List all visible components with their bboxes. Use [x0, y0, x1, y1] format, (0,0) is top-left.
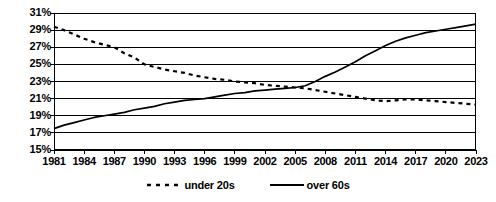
x-axis-ticks: [54, 150, 476, 154]
legend-item[interactable]: over 60s: [269, 180, 350, 191]
y-tick-label: 27%: [1, 41, 51, 52]
dashed-line-icon: [146, 180, 182, 190]
legend-label: under 20s: [184, 180, 234, 191]
x-axis-labels: 1981198419871990199319961999200220052008…: [54, 155, 476, 171]
x-tick-label: 2023: [456, 155, 496, 167]
plot-area: [54, 13, 476, 150]
y-tick-label: 31%: [1, 7, 51, 18]
y-tick-label: 23%: [1, 76, 51, 87]
legend-item[interactable]: under 20s: [146, 180, 234, 191]
line-chart: 15%17%19%21%23%25%27%29%31% 198119841987…: [0, 0, 496, 202]
y-tick-label: 21%: [1, 93, 51, 104]
y-axis-labels: 15%17%19%21%23%25%27%29%31%: [0, 0, 51, 202]
y-tick-label: 19%: [1, 110, 51, 121]
legend-label: over 60s: [307, 180, 350, 191]
y-tick-label: 17%: [1, 127, 51, 138]
y-tick-label: 25%: [1, 58, 51, 69]
chart-legend: under 20sover 60s: [0, 177, 496, 193]
y-tick-label: 15%: [1, 144, 51, 155]
solid-line-icon: [269, 180, 305, 190]
y-tick-label: 29%: [1, 24, 51, 35]
